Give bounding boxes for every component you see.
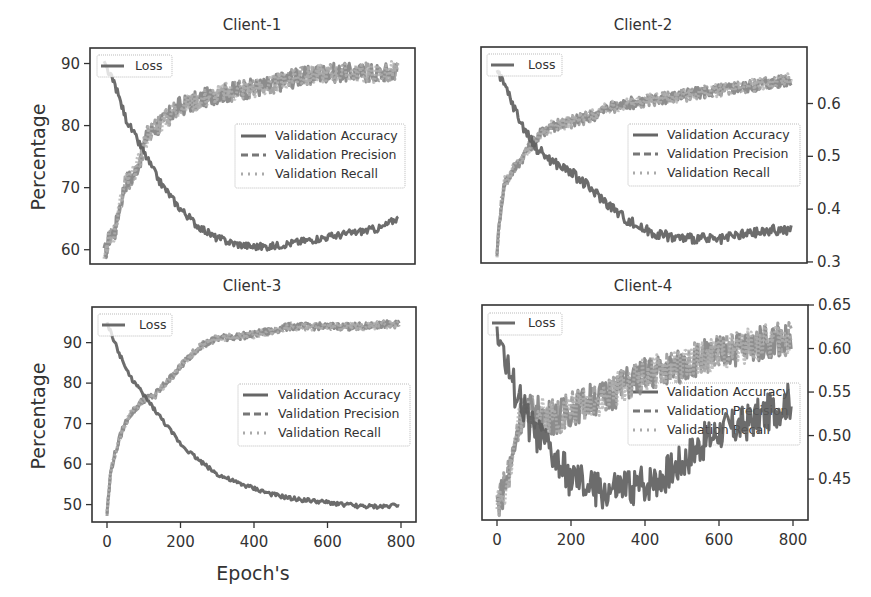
y-tick-label: 0.5	[817, 147, 841, 165]
legend-label: Loss	[135, 58, 162, 73]
panel-title: Client-4	[614, 277, 672, 295]
y-tick-label: 0.65	[818, 296, 851, 314]
legend-loss: Loss	[98, 314, 172, 336]
y-tick-label: 0.45	[818, 470, 851, 488]
x-tick-label: 0	[492, 531, 502, 549]
x-tick-label: 200	[166, 533, 195, 551]
legend-loss: Loss	[487, 54, 562, 76]
legend-metrics: Validation Accuracy Validation Precision…	[235, 124, 405, 188]
y-axis-label-bottom: Percentage	[27, 363, 49, 470]
y-tick-label: 80	[63, 374, 82, 392]
legend-loss: Loss	[488, 313, 562, 335]
legend-label: Loss	[528, 315, 555, 330]
y-tick-label: 90	[61, 55, 80, 73]
y-tick-label: 0.55	[818, 383, 851, 401]
legend-label: Validation Recall	[275, 166, 378, 181]
y-tick-label: 0.3	[817, 253, 841, 271]
legend-label: Validation Accuracy	[667, 384, 790, 399]
legend-label: Validation Accuracy	[278, 387, 401, 402]
y-tick-label: 70	[63, 415, 82, 433]
panel-title: Client-1	[223, 16, 281, 34]
y-tick-label: 80	[61, 117, 80, 135]
y-tick-label: 90	[63, 334, 82, 352]
panel-client-3: Client-3 5060708090 0200400600800 Loss V…	[63, 277, 416, 551]
x-tick-label: 0	[102, 533, 112, 551]
y-tick-label: 0.4	[817, 200, 841, 218]
y-tick-label: 60	[61, 241, 80, 259]
x-tick-label: 200	[557, 531, 586, 549]
legend-label: Validation Precision	[667, 146, 788, 161]
legend-label: Validation Recall	[667, 165, 770, 180]
y-tick-label: 0.50	[818, 427, 851, 445]
legend-metrics: Validation Accuracy Validation Precision…	[238, 384, 410, 446]
legend-label: Validation Accuracy	[667, 127, 790, 142]
y-tick-label: 50	[63, 496, 82, 514]
x-tick-label: 400	[631, 531, 660, 549]
y-axis-right: 0.30.40.50.6	[807, 95, 841, 271]
legend-label: Loss	[528, 57, 555, 72]
legend-label: Validation Accuracy	[275, 128, 398, 143]
legend-label: Validation Precision	[275, 147, 396, 162]
legend-loss: Loss	[97, 55, 172, 77]
legend-label: Loss	[139, 317, 166, 332]
y-axis-right: 0.450.500.550.600.65	[808, 296, 851, 488]
y-tick-label: 0.60	[818, 340, 851, 358]
x-tick-label: 600	[313, 533, 342, 551]
x-tick-label: 800	[779, 531, 808, 549]
y-axis-left: 60708090	[61, 55, 90, 259]
y-axis-label-top: Percentage	[27, 104, 49, 211]
legend-metrics: Validation Accuracy Validation Precision…	[628, 124, 800, 186]
y-tick-label: 0.6	[817, 95, 841, 113]
figure: Client-1 60708090 Loss Validation Accura…	[0, 0, 871, 597]
x-axis-label: Epoch's	[216, 562, 289, 584]
x-axis: 0200400600800	[102, 522, 415, 551]
panel-client-4: Client-4 Loss Validation Accuracy Valida…	[482, 277, 851, 549]
x-tick-label: 800	[387, 533, 416, 551]
x-tick-label: 600	[705, 531, 734, 549]
y-tick-label: 70	[61, 179, 80, 197]
legend-label: Validation Recall	[278, 425, 381, 440]
legend-label: Validation Precision	[278, 406, 399, 421]
y-axis-left: 5060708090	[63, 334, 92, 514]
x-tick-label: 400	[240, 533, 269, 551]
panel-title: Client-2	[614, 16, 672, 34]
panel-title: Client-3	[223, 277, 281, 295]
x-axis: 0200400600800	[492, 520, 807, 549]
y-tick-label: 60	[63, 455, 82, 473]
panel-client-2: Client-2 0.30.40.50.6 Loss Validation Ac…	[481, 16, 841, 271]
panel-client-1: Client-1 60708090 Loss Validation Accura…	[61, 16, 415, 264]
